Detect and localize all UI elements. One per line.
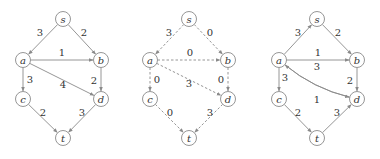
node-s-label: s <box>314 14 319 25</box>
edge-weight-a-s: 3 <box>295 27 301 38</box>
node-s-label: s <box>186 14 191 25</box>
node-d-label: d <box>98 94 104 105</box>
edge-weight-d-a: 3 <box>314 61 320 72</box>
edge-weight-a-b: 1 <box>59 47 65 58</box>
node-d-label: d <box>354 94 360 105</box>
edge-weight-a-c: 3 <box>27 74 33 85</box>
node-a-label: a <box>147 55 153 66</box>
node-c-label: c <box>276 94 282 105</box>
edge-weight-s-a: 3 <box>37 27 43 38</box>
edge-weight-b-d: 2 <box>347 75 353 86</box>
edge-weight-d-t: 3 <box>79 107 85 118</box>
edge-weight-a-d: 4 <box>60 79 66 90</box>
edge-weight-s-b: 2 <box>81 27 87 38</box>
edge-weight-a-d: 1 <box>314 94 320 105</box>
original-graph: 32134223sabcdt <box>16 12 109 146</box>
edge-weight-a-c: 3 <box>282 72 288 83</box>
edge-weight-c-t: 0 <box>167 107 173 118</box>
node-b-label: b <box>354 55 360 66</box>
node-d-label: d <box>225 94 231 105</box>
edge-weight-a-d: 3 <box>186 78 192 89</box>
node-a-label: a <box>20 55 26 66</box>
edge-weight-s-a: 3 <box>166 27 172 38</box>
edge-weight-c-t: 2 <box>295 107 301 118</box>
flow-network-figure: 32134223sabcdt30003003sabcdt321313223sab… <box>0 0 380 159</box>
node-c-label: c <box>147 94 153 105</box>
node-a-label: a <box>276 55 282 66</box>
edge-weight-c-t: 2 <box>40 107 46 118</box>
residual-graph: 321313223sabcdt <box>272 12 365 146</box>
edge-weight-b-d: 2 <box>91 75 97 86</box>
residual-flow-graph: 30003003sabcdt <box>143 12 236 146</box>
edge-weight-d-t: 3 <box>207 107 213 118</box>
edge-weight-b-d: 0 <box>218 74 224 85</box>
edge-weight-s-b: 2 <box>335 27 341 38</box>
node-c-label: c <box>20 94 26 105</box>
edge-weight-a-b: 1 <box>315 47 321 58</box>
edge-weight-s-b: 0 <box>207 27 213 38</box>
edge-weight-t-d: 3 <box>334 107 340 118</box>
node-b-label: b <box>225 55 231 66</box>
node-b-label: b <box>98 55 104 66</box>
node-s-label: s <box>60 14 65 25</box>
graphs-layer: 32134223sabcdt30003003sabcdt321313223sab… <box>16 12 365 146</box>
edge-weight-a-b: 0 <box>187 47 193 58</box>
edge-weight-a-c: 0 <box>154 74 160 85</box>
